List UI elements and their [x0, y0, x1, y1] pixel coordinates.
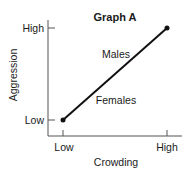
chart-title: Graph A	[94, 12, 137, 23]
data-line	[63, 28, 167, 120]
y-axis-label: Aggression	[7, 49, 19, 102]
y-tick-label-low: Low	[25, 115, 44, 126]
x-tick-label-low: Low	[54, 142, 73, 153]
chart-graph-a: Graph A High Low Low High Crowding Aggre…	[0, 0, 193, 190]
data-point-low	[61, 118, 66, 123]
annotation-males: Males	[102, 49, 130, 60]
annotation-females: Females	[96, 95, 136, 106]
x-tick-label-high: High	[156, 142, 178, 153]
x-axis-label: Crowding	[94, 157, 138, 168]
data-point-high	[165, 26, 170, 31]
y-tick-label-high: High	[22, 23, 44, 34]
